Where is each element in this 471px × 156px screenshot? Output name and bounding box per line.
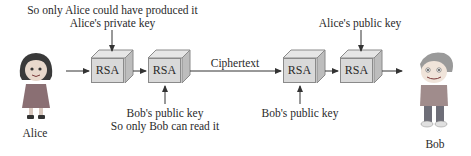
label-alice-public-key: Alice's public key <box>305 17 415 30</box>
alice-figure-icon <box>14 50 58 126</box>
actor-bob-label: Bob <box>412 138 458 151</box>
rsa-box-decrypt: RSA <box>283 50 317 76</box>
label-bob-purpose: So only Bob can read it <box>100 120 230 133</box>
rsa-box-label: RSA <box>148 58 181 83</box>
label-alice-purpose: So only Alice could have produced it <box>20 4 205 17</box>
rsa-box-encrypt: RSA <box>148 50 182 76</box>
rsa-box-label: RSA <box>340 58 373 83</box>
actor-alice-label: Alice <box>10 127 60 140</box>
label-alice-private-key: Alice's private key <box>20 17 205 30</box>
label-bob-public-key-left: Bob's public key <box>110 107 220 120</box>
rsa-box-label: RSA <box>283 58 316 83</box>
label-bob-public-key-right: Bob's public key <box>245 107 355 120</box>
bob-figure-icon <box>412 50 458 130</box>
label-ciphertext: Ciphertext <box>205 57 265 70</box>
rsa-box-verify: RSA <box>340 50 374 76</box>
rsa-box-sign: RSA <box>91 50 125 76</box>
rsa-box-label: RSA <box>91 58 124 83</box>
